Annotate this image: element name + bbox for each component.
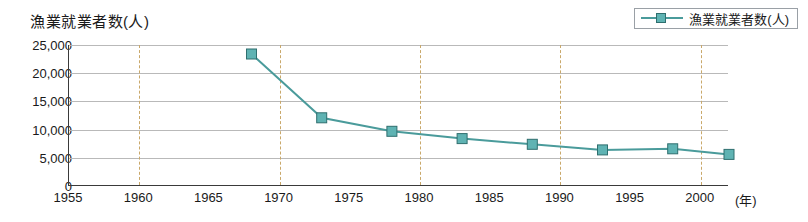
ytick-label-20000: 20,000 <box>12 66 72 81</box>
data-point-2002 <box>724 149 734 159</box>
data-point-1983 <box>457 134 467 144</box>
xtick-label-1985: 1985 <box>475 190 504 205</box>
xtick-label-1965: 1965 <box>194 190 223 205</box>
xtick-label-1980: 1980 <box>405 190 434 205</box>
data-point-1978 <box>387 126 397 136</box>
data-point-1988 <box>527 139 537 149</box>
fishery-workers-line-chart: 漁業就業者数(人) 漁業就業者数(人) 25,000 20,000 15,000… <box>0 0 808 222</box>
chart-title: 漁業就業者数(人) <box>30 10 150 31</box>
x-axis-unit-label: (年) <box>735 190 757 209</box>
data-point-1993 <box>598 145 608 155</box>
data-point-1973 <box>317 113 327 123</box>
ytick-label-10000: 10,000 <box>12 122 72 137</box>
plot-area <box>68 45 728 186</box>
legend-square-marker-icon <box>656 13 666 23</box>
ytick-label-5000: 5,000 <box>12 150 72 165</box>
xtick-label-1975: 1975 <box>334 190 363 205</box>
plot-inner <box>69 45 728 185</box>
legend-series-symbol <box>641 12 683 24</box>
data-point-1998 <box>668 144 678 154</box>
ytick-label-25000: 25,000 <box>12 38 72 53</box>
series-line-path <box>252 54 730 154</box>
xtick-label-1960: 1960 <box>124 190 153 205</box>
series-line-fishery-workers <box>69 45 729 186</box>
xtick-label-1995: 1995 <box>615 190 644 205</box>
data-point-1968 <box>247 49 257 59</box>
xtick-label-1990: 1990 <box>545 190 574 205</box>
ytick-label-15000: 15,000 <box>12 94 72 109</box>
xtick-label-1955: 1955 <box>54 190 83 205</box>
xtick-label-2000: 2000 <box>685 190 714 205</box>
chart-legend: 漁業就業者数(人) <box>634 8 798 29</box>
xtick-label-1970: 1970 <box>264 190 293 205</box>
legend-label: 漁業就業者数(人) <box>689 9 789 28</box>
